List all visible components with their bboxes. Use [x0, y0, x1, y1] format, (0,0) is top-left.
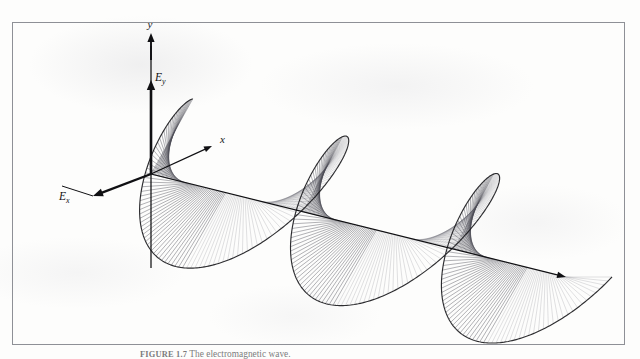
figure-page: y x Ey Ex FIGURE 1.7 The electromagnetic… — [0, 0, 640, 359]
caption-text: The electromagnetic wave. — [189, 349, 290, 359]
figure-border — [12, 22, 625, 345]
caption-number: FIGURE 1.7 — [140, 350, 187, 359]
figure-caption: FIGURE 1.7 The electromagnetic wave. — [140, 349, 560, 359]
